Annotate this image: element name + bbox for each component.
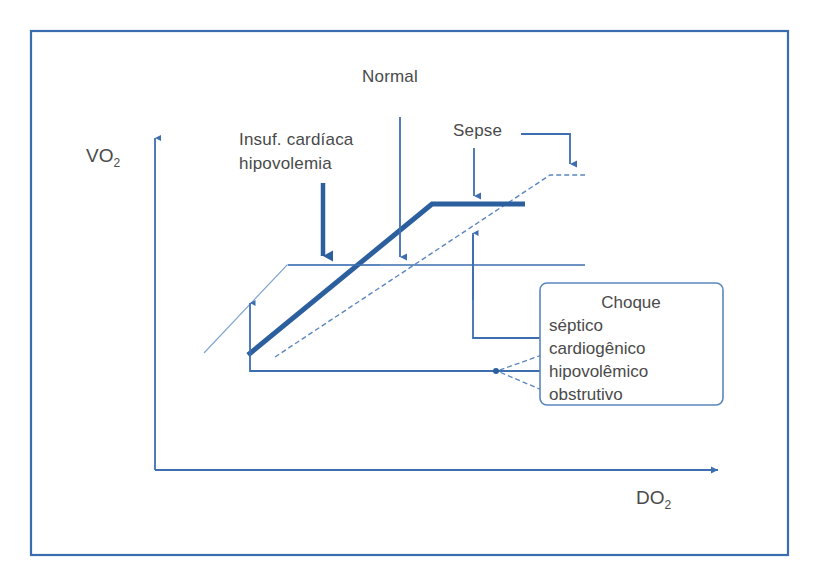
- curve-normal: [248, 204, 525, 355]
- choque-box-title: Choque: [601, 293, 661, 312]
- annotation-sepse: Sepse: [453, 121, 502, 140]
- figure-root: VO2 DO2 Insuf. cardíaca hipovolemia Norm…: [0, 0, 815, 577]
- sepse-elbow-leader: [521, 134, 570, 164]
- curve-insuf-cardiaca: [204, 265, 380, 353]
- choque-box-item-cardiogenico: cardiogênico: [549, 339, 645, 358]
- choque-fan-junction: [493, 368, 499, 374]
- annotation-insuf-cardiaca-line1: Insuf. cardíaca: [239, 130, 354, 149]
- choque-fan-leader-upper: [497, 355, 542, 371]
- y-axis-label: VO2: [86, 145, 120, 170]
- x-axis-label: DO2: [636, 487, 672, 512]
- choque-box-item-obstrutivo: obstrutivo: [549, 385, 623, 404]
- diagram-canvas: VO2 DO2 Insuf. cardíaca hipovolemia Norm…: [0, 0, 815, 577]
- choque-box-item-hipovolemico: hipovolêmico: [549, 362, 648, 381]
- annotation-insuf-cardiaca-line2: hipovolemia: [239, 154, 332, 173]
- choque-box-item-septico: séptico: [549, 316, 603, 335]
- choque-fan-leader-lower: [497, 371, 542, 390]
- choque-leader-upper: [473, 235, 540, 338]
- annotation-normal: Normal: [362, 67, 418, 86]
